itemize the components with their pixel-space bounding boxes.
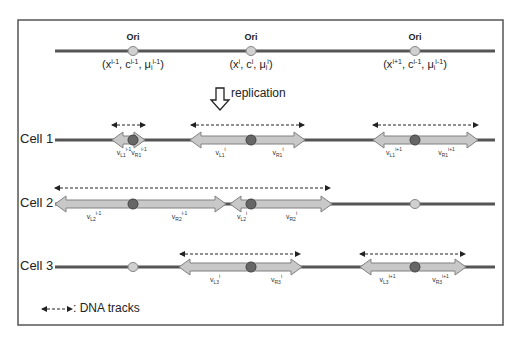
cell-1 xyxy=(55,125,495,148)
left-fork-velocity: vL2i-1 xyxy=(87,210,102,222)
origin-marker xyxy=(410,47,420,56)
origin-label: Ori xyxy=(244,32,257,42)
right-fork-velocity: vR2i-1 xyxy=(172,210,187,222)
fired-origin-marker xyxy=(410,262,420,272)
fired-origin-marker xyxy=(246,262,256,272)
origin-coordinates: (xi+1, ci-1, μii-1) xyxy=(383,58,447,71)
fired-origin-marker xyxy=(246,135,256,145)
left-fork-velocity: vL3i xyxy=(210,273,220,285)
origin-label: Ori xyxy=(408,32,421,42)
fired-origin-marker xyxy=(410,135,420,145)
left-fork-velocity: vL1i-1 xyxy=(117,146,132,158)
cell-2 xyxy=(55,188,495,212)
fired-origin-marker xyxy=(246,199,256,209)
origin-marker xyxy=(128,47,138,56)
replication-arrow xyxy=(211,88,229,110)
diagram-canvas xyxy=(0,0,521,341)
cell-label: Cell 2 xyxy=(20,195,53,210)
legend-label: : DNA tracks xyxy=(73,301,140,315)
left-fork-velocity: vL1i+1 xyxy=(386,146,402,158)
replication-label: replication xyxy=(231,86,286,100)
origin-coordinates: (xi, ci, μii) xyxy=(229,58,272,71)
unfired-origin-marker xyxy=(128,263,138,272)
origin-marker xyxy=(246,47,256,56)
replication-diagram: Ori(xi-1, ci-1, μii-1)Ori(xi, ci, μii)Or… xyxy=(0,0,521,341)
down-arrow-icon xyxy=(211,88,229,110)
right-fork-velocity: vR2i xyxy=(286,210,297,222)
origin-coordinates: (xi-1, ci-1, μii-1) xyxy=(102,58,164,71)
unfired-origin-marker xyxy=(410,200,420,209)
fired-origin-marker xyxy=(128,135,138,145)
origin-label: Ori xyxy=(126,32,139,42)
left-fork-velocity: vL1i xyxy=(215,146,225,158)
left-fork-velocity: vL2i xyxy=(237,210,247,222)
cell-3 xyxy=(55,254,495,275)
parent-chromosome xyxy=(55,47,495,56)
cell-label: Cell 1 xyxy=(20,131,53,146)
right-fork-velocity: vR3i xyxy=(271,273,282,285)
right-fork-velocity: vR1i-1 xyxy=(131,146,146,158)
fired-origin-marker xyxy=(128,199,138,209)
right-fork-velocity: vR1i xyxy=(272,146,283,158)
left-fork-velocity: vL3i+1 xyxy=(380,273,396,285)
right-fork-velocity: vR1i+1 xyxy=(438,146,455,158)
cell-label: Cell 3 xyxy=(20,258,53,273)
right-fork-velocity: vR3i+1 xyxy=(432,273,449,285)
